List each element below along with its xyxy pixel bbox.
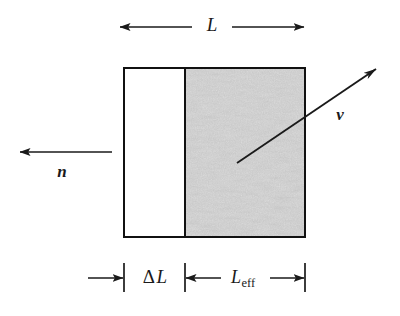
dimension-deltaL-label: ΔL [143,266,167,287]
dimension-L-label: L [206,14,218,35]
slab-unshaded-layer [124,68,185,237]
velocity-vector-label: v [336,105,344,124]
figure-canvas: L n v ΔL Leff [0,0,400,316]
normal-vector-group: n [20,152,112,181]
diagram-svg: L n v ΔL Leff [0,0,400,316]
slab-group [124,68,305,237]
dimension-Leff-label: Leff [230,267,256,289]
delta-glyph: Δ [143,266,155,287]
dimension-total-length: L [120,14,304,35]
dimension-bottom-group: ΔL Leff [88,263,305,292]
normal-vector-label: n [57,162,66,181]
slab-shaded-band-texture [185,68,305,237]
deltaL-L-glyph: L [156,266,168,287]
Leff-base-glyph: L [230,267,241,287]
Leff-subscript-glyph: eff [241,275,255,289]
